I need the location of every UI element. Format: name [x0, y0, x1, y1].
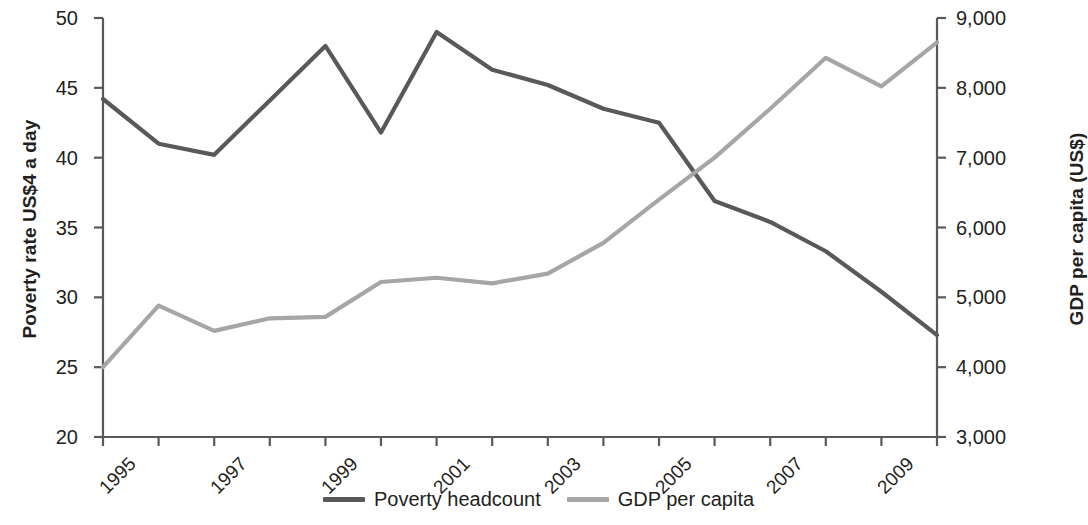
series-line-0 [103, 32, 937, 335]
legend-item-0[interactable]: Poverty headcount [323, 488, 541, 511]
legend-item-1[interactable]: GDP per capita [567, 488, 754, 511]
legend-swatch-icon [323, 497, 365, 502]
legend-label: Poverty headcount [374, 488, 541, 511]
chart-legend: Poverty headcountGDP per capita [0, 488, 1077, 511]
legend-label: GDP per capita [618, 488, 754, 511]
series-line-1 [103, 42, 937, 367]
legend-swatch-icon [567, 497, 609, 502]
